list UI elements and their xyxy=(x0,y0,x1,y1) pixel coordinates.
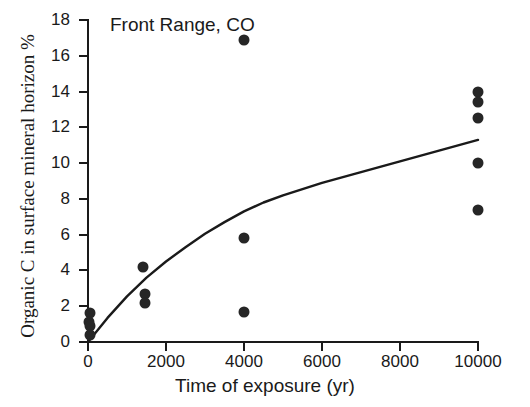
data-point xyxy=(239,306,250,317)
y-axis-label: Organic C in surface mineral horizon % xyxy=(17,21,39,351)
y-tick-label-14: 14 xyxy=(36,83,70,100)
x-axis-line xyxy=(87,341,479,343)
y-tick-18 xyxy=(79,19,88,21)
x-tick-label-2000: 2000 xyxy=(126,353,206,370)
y-tick-8 xyxy=(79,198,88,200)
data-point xyxy=(239,34,250,45)
data-point xyxy=(84,329,95,340)
x-tick-2000 xyxy=(165,343,167,351)
data-point xyxy=(473,113,484,124)
x-tick-6000 xyxy=(321,343,323,351)
fitted-curve xyxy=(0,0,530,407)
x-tick-label-4000: 4000 xyxy=(204,353,284,370)
data-point xyxy=(473,86,484,97)
scatter-chart: Front Range, CO 024681012141618 02000400… xyxy=(0,0,530,407)
y-tick-2 xyxy=(79,305,88,307)
x-tick-0 xyxy=(87,343,89,351)
y-tick-10 xyxy=(79,162,88,164)
y-tick-label-16: 16 xyxy=(36,47,70,64)
y-tick-label-10: 10 xyxy=(36,154,70,171)
x-axis-label: Time of exposure (yr) xyxy=(0,375,530,397)
data-point xyxy=(473,97,484,108)
y-tick-6 xyxy=(79,234,88,236)
data-point xyxy=(473,158,484,169)
data-point xyxy=(137,261,148,272)
y-tick-label-12: 12 xyxy=(36,118,70,135)
x-tick-4000 xyxy=(243,343,245,351)
y-tick-label-6: 6 xyxy=(36,226,70,243)
x-tick-label-8000: 8000 xyxy=(360,353,440,370)
x-tick-label-0: 0 xyxy=(48,353,128,370)
x-tick-label-6000: 6000 xyxy=(282,353,362,370)
y-tick-12 xyxy=(79,126,88,128)
x-tick-10000 xyxy=(477,343,479,351)
x-tick-label-10000: 10000 xyxy=(438,353,518,370)
y-tick-label-8: 8 xyxy=(36,190,70,207)
y-tick-14 xyxy=(79,91,88,93)
data-point xyxy=(239,233,250,244)
data-point xyxy=(139,297,150,308)
y-tick-16 xyxy=(79,55,88,57)
chart-title: Front Range, CO xyxy=(110,14,255,36)
y-tick-4 xyxy=(79,269,88,271)
y-tick-label-18: 18 xyxy=(36,11,70,28)
y-tick-label-0: 0 xyxy=(36,333,70,350)
x-tick-8000 xyxy=(399,343,401,351)
y-axis-line xyxy=(87,19,89,343)
data-point xyxy=(473,204,484,215)
y-tick-label-2: 2 xyxy=(36,297,70,314)
y-tick-label-4: 4 xyxy=(36,261,70,278)
